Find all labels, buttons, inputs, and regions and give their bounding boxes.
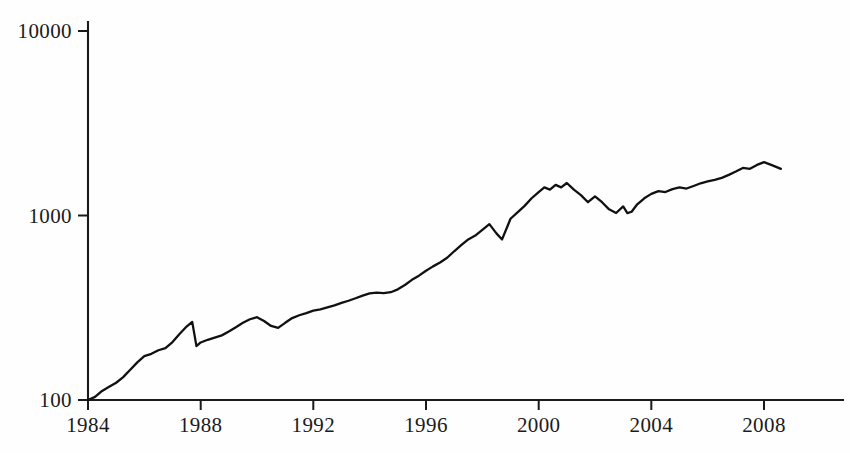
y-tick-label-1000: 1000 [28, 204, 72, 228]
line-chart-plot: 10000 1000 100 1984 1988 1992 1996 2000 … [0, 0, 850, 453]
x-tick-label-1984: 1984 [66, 413, 110, 437]
x-tick-label-1988: 1988 [179, 413, 223, 437]
x-tick-label-2008: 2008 [742, 413, 786, 437]
x-tick-label-2000: 2000 [517, 413, 561, 437]
x-tick-label-1992: 1992 [291, 413, 335, 437]
y-tick-label-100: 100 [39, 388, 72, 412]
chart-container: 10000 1000 100 1984 1988 1992 1996 2000 … [0, 0, 850, 453]
data-series-line [88, 162, 781, 400]
y-tick-label-10000: 10000 [18, 19, 73, 43]
x-tick-label-1996: 1996 [404, 413, 448, 437]
x-tick-label-2004: 2004 [629, 413, 673, 437]
